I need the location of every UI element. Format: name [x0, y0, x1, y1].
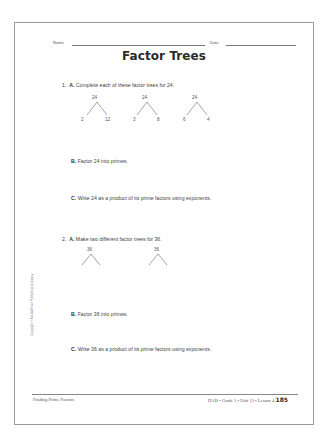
- part-letter: A.: [69, 82, 74, 88]
- tree-right-leaf: 8: [157, 117, 160, 122]
- part-letter: C.: [71, 346, 76, 352]
- problem-text: Complete each of these factor trees for …: [76, 82, 174, 88]
- tree-right-leaf: 4: [207, 117, 210, 122]
- tree-root: 36: [154, 247, 159, 252]
- page-title: Factor Trees: [0, 49, 328, 63]
- problem-text: Factor 24 into primes.: [78, 158, 128, 164]
- problem-2c: C. Write 36 as a product of its prime fa…: [71, 346, 211, 352]
- footer-lesson-info: DAB • Grade 5 • Unit 11 • Lesson 4: [208, 398, 274, 403]
- footer-divider: [32, 394, 298, 395]
- tree-branches: [184, 101, 214, 117]
- problem-text: Write 36 as a product of its prime facto…: [78, 346, 212, 352]
- problem-2a: 2. A. Make two different factor trees fo…: [62, 236, 162, 242]
- tree-left-leaf: 2: [81, 117, 84, 122]
- tree-branches: [134, 101, 164, 117]
- footer-course-info: DAB • Grade 5 • Unit 11 • Lesson 4 185: [208, 396, 288, 403]
- copyright-notice: Copyright © Kendall/Hunt Publishing Comp…: [30, 274, 34, 336]
- problem-text: Factor 36 into primes.: [78, 311, 128, 317]
- page-number: 185: [275, 396, 288, 403]
- tree-right-leaf: 12: [105, 117, 110, 122]
- problem-1a: 1. A. Complete each of these factor tree…: [62, 82, 174, 88]
- problem-text: Write 24 as a product of its prime facto…: [78, 195, 212, 201]
- part-letter: B.: [71, 311, 76, 317]
- date-line[interactable]: [226, 45, 296, 46]
- problem-2b: B. Factor 36 into primes.: [71, 311, 128, 317]
- problem-number: 1.: [62, 82, 66, 88]
- part-letter: B.: [71, 158, 76, 164]
- tree-branches: [80, 253, 110, 269]
- footer-section-title: Finding Prime Factors: [33, 397, 74, 402]
- date-label: Date: [210, 40, 218, 45]
- part-letter: A.: [69, 236, 74, 242]
- problem-number: 2.: [62, 236, 66, 242]
- part-letter: C.: [71, 195, 76, 201]
- tree-root: 36: [87, 247, 92, 252]
- problem-1b: B. Factor 24 into primes.: [71, 158, 128, 164]
- problem-1c: C. Write 24 as a product of its prime fa…: [71, 195, 211, 201]
- tree-root: 24: [92, 95, 97, 100]
- tree-left-leaf: 6: [183, 117, 186, 122]
- tree-branches: [84, 101, 114, 117]
- problem-text: Make two different factor trees for 36.: [76, 236, 162, 242]
- tree-root: 24: [192, 95, 197, 100]
- name-line[interactable]: [72, 45, 205, 46]
- name-label: Name: [53, 40, 64, 45]
- tree-root: 24: [142, 95, 147, 100]
- tree-branches: [147, 253, 177, 269]
- tree-left-leaf: 3: [133, 117, 136, 122]
